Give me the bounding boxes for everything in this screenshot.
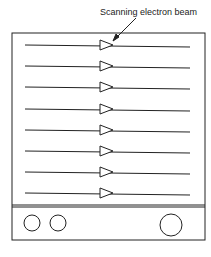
crt-diagram [0,0,211,257]
scan-lines [25,40,190,198]
small-knob-1 [24,215,40,231]
large-knob [160,214,182,236]
small-knob-2 [50,215,66,231]
pointer-arrowhead [113,34,119,41]
